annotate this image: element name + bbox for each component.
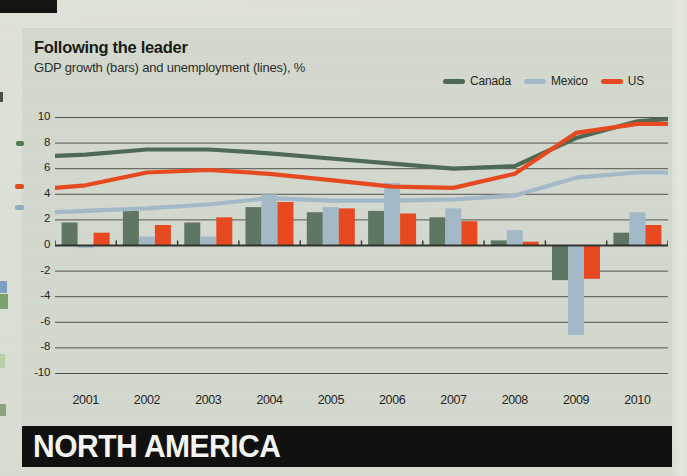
- photo-artifact: [15, 205, 24, 210]
- legend-swatch-icon: [524, 79, 546, 84]
- y-tick-label: -6: [22, 315, 50, 327]
- bar-us-2009: [584, 246, 600, 279]
- y-tick-label: -2: [22, 264, 50, 276]
- photo-artifact: [0, 354, 5, 368]
- bar-us-2004: [278, 202, 294, 246]
- y-tick-label: 8: [22, 136, 50, 148]
- bar-canada-2007: [429, 217, 445, 245]
- chart-subtitle: GDP growth (bars) and unemployment (line…: [34, 60, 305, 75]
- plot-svg: [55, 110, 668, 380]
- bar-mexico-2010: [629, 212, 645, 245]
- bar-us-2007: [461, 221, 477, 245]
- bar-mexico-2004: [262, 194, 278, 245]
- section-banner-label: NORTH AMERICA: [33, 429, 280, 464]
- y-tick-label: 6: [22, 161, 50, 173]
- y-tick-label: -8: [22, 340, 50, 352]
- x-tick-label: 2001: [55, 393, 117, 407]
- y-tick-label: 4: [22, 187, 50, 199]
- x-axis-labels: 2001200220032004200520062007200820092010: [55, 393, 668, 409]
- bar-canada-2004: [246, 207, 262, 245]
- photo-artifact: [0, 0, 57, 13]
- bar-mexico-2002: [139, 237, 155, 246]
- bar-us-2005: [339, 208, 355, 245]
- line-mexico: [55, 173, 668, 213]
- bar-canada-2009: [552, 246, 568, 281]
- photo-artifact: [0, 294, 8, 309]
- x-tick-label: 2003: [177, 393, 239, 407]
- bar-canada-2002: [123, 211, 139, 246]
- bar-us-2001: [94, 233, 110, 246]
- bar-canada-2006: [368, 211, 384, 246]
- legend-swatch-icon: [601, 79, 623, 84]
- legend: CanadaMexicoUS: [0, 74, 644, 88]
- photo-artifact: [0, 404, 6, 416]
- bar-mexico-2005: [323, 207, 339, 245]
- bar-us-2002: [155, 225, 171, 246]
- y-tick-label: 10: [22, 110, 50, 122]
- line-canada: [55, 119, 668, 169]
- x-tick-label: 2007: [422, 393, 484, 407]
- legend-label: Canada: [470, 74, 511, 88]
- y-tick-label: 0: [22, 238, 50, 250]
- bar-us-2010: [645, 225, 661, 246]
- legend-swatch-icon: [443, 79, 465, 84]
- x-tick-label: 2006: [361, 393, 423, 407]
- page-edge-highlight: [671, 0, 687, 476]
- x-tick-label: 2004: [239, 393, 301, 407]
- section-banner: NORTH AMERICA: [22, 426, 672, 467]
- legend-item-us: US: [601, 74, 644, 88]
- bar-canada-2001: [62, 223, 78, 246]
- y-tick-label: -4: [22, 289, 50, 301]
- bar-us-2006: [400, 214, 416, 246]
- y-tick-label: 2: [22, 212, 50, 224]
- bar-canada-2003: [184, 223, 200, 246]
- legend-item-canada: Canada: [443, 74, 511, 88]
- magazine-chart-photo: Following the leader GDP growth (bars) a…: [0, 0, 687, 476]
- bar-us-2003: [216, 217, 232, 245]
- photo-artifact: [0, 92, 3, 102]
- x-tick-label: 2009: [545, 393, 607, 407]
- legend-label: Mexico: [551, 74, 588, 88]
- bar-mexico-2003: [200, 237, 216, 246]
- bar-canada-2005: [307, 212, 323, 245]
- x-tick-label: 2008: [484, 393, 546, 407]
- x-tick-label: 2010: [606, 393, 668, 407]
- chart-title: Following the leader: [34, 38, 188, 57]
- bar-mexico-2008: [507, 230, 523, 245]
- y-tick-label: -10: [22, 366, 50, 378]
- x-tick-label: 2005: [300, 393, 362, 407]
- legend-item-mexico: Mexico: [524, 74, 588, 88]
- bar-mexico-2006: [384, 183, 400, 246]
- legend-label: US: [628, 74, 644, 88]
- x-tick-label: 2002: [116, 393, 178, 407]
- bar-canada-2010: [613, 233, 629, 246]
- bar-mexico-2009: [568, 246, 584, 336]
- photo-artifact: [0, 281, 7, 293]
- bar-mexico-2007: [445, 208, 461, 245]
